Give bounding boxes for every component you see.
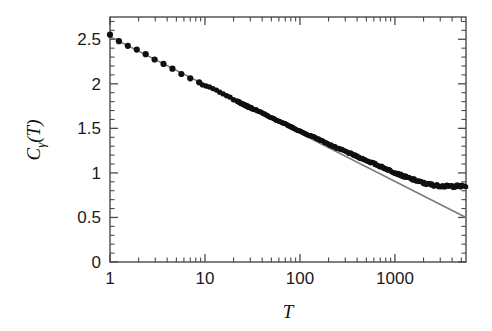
figure-background bbox=[0, 0, 492, 331]
x-tick-label: 100 bbox=[286, 269, 314, 288]
y-tick-label: 1 bbox=[92, 164, 101, 183]
x-tick-label: 1000 bbox=[376, 269, 414, 288]
y-tick-label: 1.5 bbox=[77, 119, 101, 138]
x-axis-title: T bbox=[283, 301, 295, 322]
y-tick-label: 2.5 bbox=[77, 30, 101, 49]
chart-figure: 1101001000 00.511.522.5 T Cγ(T) bbox=[0, 0, 492, 331]
y-axis-title-base: C bbox=[23, 148, 44, 161]
x-tick-label: 10 bbox=[196, 269, 215, 288]
y-axis-title-argument: (T) bbox=[23, 119, 45, 142]
x-tick-label: 1 bbox=[105, 269, 114, 288]
y-tick-label: 0 bbox=[92, 253, 101, 272]
y-tick-label: 2 bbox=[92, 75, 101, 94]
y-tick-label: 0.5 bbox=[77, 208, 101, 227]
